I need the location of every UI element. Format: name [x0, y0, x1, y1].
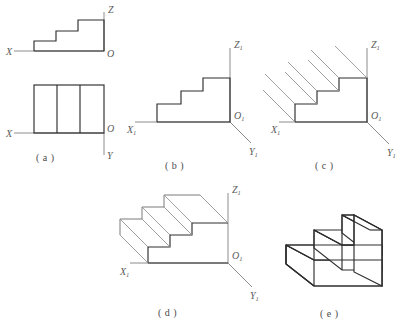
connector-line [164, 207, 192, 235]
projection-line [265, 74, 295, 104]
panel-d-y1-label: Y1 [250, 290, 259, 302]
panel-a-top-view-rect [34, 85, 104, 133]
projection-line [311, 50, 339, 78]
panel-a-caption: ( a ) [36, 152, 55, 163]
panel-b: X1 Z1 O1 Y1 ( b ) [125, 38, 255, 168]
panel-d-z1-label: Z1 [232, 184, 241, 196]
connector-line [164, 195, 192, 223]
panel-a-y-label: Y [107, 150, 114, 161]
panel-d-y1-axis [228, 263, 252, 287]
connector-line [142, 219, 170, 247]
panel-b-y1-axis [230, 122, 251, 143]
panel-d-x1-label: X1 [119, 266, 129, 278]
panel-b-z1-label: Z1 [234, 39, 243, 51]
panel-d-front-profile [148, 223, 228, 263]
connector-line [142, 207, 170, 235]
panel-c-caption: ( c ) [315, 160, 334, 171]
projection-line [335, 46, 367, 78]
panel-a-front-view-profile [34, 20, 104, 51]
panel-c-stepped-profile [295, 78, 367, 122]
panel-d-rear-profile [120, 195, 200, 235]
connector-line [120, 219, 148, 247]
projection-line [288, 62, 317, 91]
panel-d-caption: ( d ) [158, 307, 177, 318]
panel-c-projection-lines [263, 46, 367, 122]
panel-a-z-label: Z [108, 4, 114, 15]
panel-c-y1-label: Y1 [387, 147, 396, 159]
panel-a-x-label-top: X [5, 128, 13, 139]
panel-a-x-label: X [5, 46, 13, 57]
panel-e: ( e ) [270, 190, 406, 320]
panel-b-caption: ( b ) [165, 160, 184, 171]
panel-c-z1-label: Z1 [371, 39, 380, 51]
connector-line [120, 235, 148, 263]
projection-line [263, 90, 295, 122]
panel-a-origin-top-label: O [107, 123, 114, 134]
panel-c-origin1-label: O1 [371, 110, 381, 122]
panel-d: X1 Z1 O1 Y1 ( d ) [110, 185, 270, 320]
connector-line [200, 195, 228, 223]
panel-b-stepped-profile [157, 78, 230, 122]
panel-d-origin1-label: O1 [232, 250, 242, 262]
panel-b-origin1-label: O1 [234, 110, 244, 122]
panel-c-y1-axis [367, 122, 389, 144]
panel-d-connector-lines [120, 195, 228, 263]
panel-c-x1-label: X1 [270, 124, 280, 136]
panel-b-x1-label: X1 [126, 124, 136, 136]
panel-e-caption: ( e ) [320, 308, 339, 319]
panel-c: X1 Z1 O1 Y1 ( c ) [255, 38, 405, 168]
panel-a-origin-front-label: O [107, 48, 114, 59]
